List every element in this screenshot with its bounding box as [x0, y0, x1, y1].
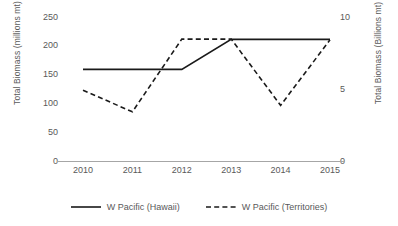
plot-area: [0, 0, 398, 226]
series-line: [83, 39, 330, 69]
chart-legend: W Pacific (Hawaii)W Pacific (Territories…: [0, 202, 398, 212]
legend-label: W Pacific (Hawaii): [107, 202, 180, 212]
series-line: [83, 39, 330, 112]
legend-item[interactable]: W Pacific (Hawaii): [71, 202, 180, 212]
legend-swatch-dashed-icon: [206, 203, 236, 211]
legend-label: W Pacific (Territories): [242, 202, 328, 212]
legend-swatch-solid-icon: [71, 203, 101, 211]
legend-item[interactable]: W Pacific (Territories): [206, 202, 328, 212]
chart-container: Total Biomass (millions mt) Total Biomas…: [0, 0, 398, 226]
